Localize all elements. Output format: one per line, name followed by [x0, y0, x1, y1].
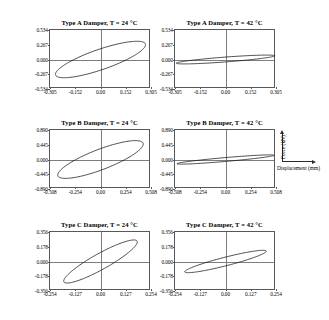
x-tick-label: 0.127 — [245, 291, 256, 297]
x-tick-label: 0.00 — [221, 291, 230, 297]
x-tick-label: 0.152 — [245, 89, 256, 95]
panel-title: Type A Damper, T = 42 °C — [174, 19, 275, 27]
x-tick-label: 0.305 — [145, 89, 156, 95]
panel-title: Type B Damper, T = 24 °C — [49, 119, 150, 127]
x-tick-label: -0.127 — [194, 291, 207, 297]
damper-hysteresis-figure: Type A Damper, T = 24 °C0.5340.2670.000-… — [0, 0, 329, 320]
hysteresis-loop-panel-b-24 — [50, 130, 151, 189]
hysteresis-loop-panel-a-24 — [50, 30, 151, 89]
hysteresis-loop-panel-b-42 — [175, 130, 276, 189]
x-tick-label: -0.508 — [168, 189, 181, 195]
axis-key-right-arrow-icon — [312, 160, 316, 164]
y-tick-label: 0.356 — [161, 229, 172, 235]
y-tick-label: -0.445 — [160, 171, 173, 177]
x-tick-label: 0.508 — [270, 189, 281, 195]
x-tick-label: 0.152 — [120, 89, 131, 95]
loop-curve — [58, 141, 144, 179]
hysteresis-loop-panel-c-42 — [175, 232, 276, 291]
plot-area-panel-a-24: 0.5340.2670.000-0.267-0.534-0.305-0.1520… — [49, 29, 150, 88]
y-tick-label: 0.178 — [36, 244, 47, 250]
x-tick-label: 0.254 — [245, 189, 256, 195]
x-tick-label: -0.254 — [69, 189, 82, 195]
loop-curve — [185, 250, 267, 272]
y-tick-label: 0.445 — [36, 142, 47, 148]
y-tick-label: 0.356 — [36, 229, 47, 235]
y-tick-label: 0.000 — [161, 157, 172, 163]
loop-curve — [177, 155, 274, 164]
y-tick-label: 0.445 — [161, 142, 172, 148]
y-tick-label: 0.000 — [36, 259, 47, 265]
loop-curve — [64, 240, 138, 283]
x-tick-label: 0.00 — [96, 291, 105, 297]
axis-key: Force (kN) Displacement (mm) — [282, 129, 329, 173]
x-tick-label: -0.508 — [43, 189, 56, 195]
x-tick-label: 0.508 — [145, 189, 156, 195]
x-tick-label: -0.254 — [168, 291, 181, 297]
axis-key-y-label: Force (kN) — [280, 135, 286, 159]
y-tick-label: 0.000 — [161, 57, 172, 63]
x-tick-label: -0.152 — [194, 89, 207, 95]
panel-title: Type C Damper, T = 42 °C — [174, 221, 275, 229]
y-tick-label: 0.000 — [36, 157, 47, 163]
x-tick-label: 0.00 — [221, 89, 230, 95]
y-tick-label: 0.178 — [161, 244, 172, 250]
y-tick-label: -0.178 — [160, 273, 173, 279]
y-tick-label: -0.445 — [35, 171, 48, 177]
x-tick-label: 0.254 — [270, 291, 281, 297]
y-tick-label: 0.000 — [161, 259, 172, 265]
x-tick-label: -0.254 — [43, 291, 56, 297]
x-tick-label: -0.127 — [69, 291, 82, 297]
y-tick-label: 0.890 — [161, 127, 172, 133]
x-tick-label: 0.00 — [221, 189, 230, 195]
axis-key-horizontal-line — [282, 161, 313, 162]
plot-area-panel-b-24: 0.8900.4450.000-0.445-0.890-0.508-0.2540… — [49, 129, 150, 188]
x-tick-label: 0.00 — [96, 189, 105, 195]
x-tick-label: 0.305 — [270, 89, 281, 95]
loop-curve — [55, 41, 145, 77]
y-tick-label: 0.534 — [161, 27, 172, 33]
axis-key-x-label: Displacement (mm) — [277, 165, 320, 171]
panel-title: Type B Damper, T = 42 °C — [174, 119, 275, 127]
plot-area-panel-c-42: 0.3560.1780.000-0.178-0.356-0.254-0.1270… — [174, 231, 275, 290]
x-tick-label: -0.305 — [43, 89, 56, 95]
x-tick-label: -0.152 — [69, 89, 82, 95]
x-tick-label: 0.254 — [120, 189, 131, 195]
x-tick-label: -0.305 — [168, 89, 181, 95]
panel-title: Type A Damper, T = 24 °C — [49, 19, 150, 27]
y-tick-label: -0.267 — [160, 71, 173, 77]
loop-curve — [176, 55, 274, 64]
y-tick-label: 0.534 — [36, 27, 47, 33]
plot-area-panel-a-42: 0.5340.2670.000-0.267-0.534-0.305-0.1520… — [174, 29, 275, 88]
y-tick-label: 0.890 — [36, 127, 47, 133]
hysteresis-loop-panel-a-42 — [175, 30, 276, 89]
axis-key-up-arrow-icon — [280, 130, 284, 134]
panel-title: Type C Damper, T = 24 °C — [49, 221, 150, 229]
y-tick-label: 0.000 — [36, 57, 47, 63]
y-tick-label: -0.267 — [35, 71, 48, 77]
hysteresis-loop-panel-c-24 — [50, 232, 151, 291]
y-tick-label: -0.178 — [35, 273, 48, 279]
y-tick-label: 0.267 — [161, 42, 172, 48]
plot-area-panel-b-42: 0.8900.4450.000-0.445-0.890-0.508-0.2540… — [174, 129, 275, 188]
plot-area-panel-c-24: 0.3560.1780.000-0.178-0.356-0.254-0.1270… — [49, 231, 150, 290]
x-tick-label: 0.00 — [96, 89, 105, 95]
x-tick-label: 0.127 — [120, 291, 131, 297]
x-tick-label: 0.254 — [145, 291, 156, 297]
y-tick-label: 0.267 — [36, 42, 47, 48]
x-tick-label: -0.254 — [194, 189, 207, 195]
